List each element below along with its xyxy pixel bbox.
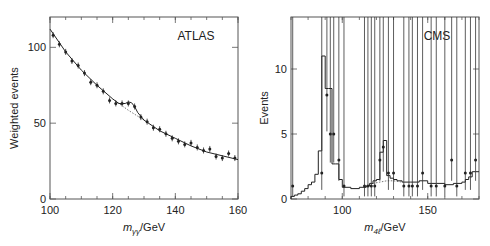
data-point (208, 147, 211, 150)
expected-histogram (291, 56, 479, 199)
data-point (474, 159, 477, 162)
data-point (64, 50, 67, 53)
data-point (332, 133, 335, 136)
data-point (387, 172, 390, 175)
data-point (183, 143, 186, 146)
data-point (177, 140, 180, 143)
x-tick-label: 120 (103, 204, 121, 216)
y-tick-label: 0 (40, 193, 46, 205)
data-point (373, 185, 376, 188)
data-point (378, 159, 381, 162)
data-point (152, 126, 155, 129)
x-tick-label: 100 (41, 204, 59, 216)
x-tick-label: 100 (333, 204, 351, 216)
data-point (370, 185, 373, 188)
data-point (89, 81, 92, 84)
y-axis-label: Events (258, 91, 270, 125)
data-point (139, 116, 142, 119)
signal-background-fit-line (50, 29, 238, 160)
data-point (337, 159, 340, 162)
data-point (96, 84, 99, 87)
data-point (455, 185, 458, 188)
data-point (435, 185, 438, 188)
data-point (233, 157, 236, 160)
experiment-label: CMS (424, 29, 451, 43)
y-tick-label: 10 (275, 63, 287, 75)
x-axis-label: m4ℓ/GeV (364, 221, 406, 236)
data-point (77, 64, 80, 67)
data-point (70, 59, 73, 62)
data-point (366, 185, 369, 188)
data-point (164, 132, 167, 135)
data-point (158, 128, 161, 131)
data-point (121, 102, 124, 105)
data-point (146, 120, 149, 123)
x-axis-label: mγγ/GeV (123, 221, 166, 236)
data-point (127, 102, 130, 105)
experiment-label: ATLAS (177, 29, 214, 43)
data-point (416, 185, 419, 188)
y-tick-label: 5 (281, 128, 287, 140)
data-point (58, 43, 61, 46)
atlas-chart: 100120140160050100mγγ/GeVWeighted events… (8, 17, 247, 236)
data-point (469, 172, 472, 175)
data-point (342, 185, 345, 188)
data-point (443, 185, 446, 188)
data-point (363, 185, 366, 188)
data-point (325, 94, 328, 97)
data-point (133, 105, 136, 108)
data-point (227, 152, 230, 155)
data-point (114, 102, 117, 105)
data-point (402, 185, 405, 188)
y-axis-label: Weighted events (8, 67, 20, 149)
plot-frame (50, 17, 238, 199)
data-point (52, 34, 55, 37)
y-tick-label: 50 (34, 117, 46, 129)
data-point (108, 99, 111, 102)
data-point (171, 137, 174, 140)
background-line (373, 181, 402, 184)
data-point (196, 146, 199, 149)
plot-frame (291, 17, 479, 199)
data-point (329, 133, 332, 136)
data-point (190, 141, 193, 144)
data-point (464, 172, 467, 175)
data-point (392, 172, 395, 175)
data-point (450, 159, 453, 162)
cms-chart: 1001500510m4ℓ/GeVEventsCMS (258, 17, 479, 236)
data-point (215, 155, 218, 158)
data-point (407, 185, 410, 188)
x-tick-label: 150 (419, 204, 437, 216)
x-tick-label: 140 (166, 204, 184, 216)
y-tick-label: 100 (28, 41, 46, 53)
data-point (202, 149, 205, 152)
data-point (291, 185, 294, 188)
data-point (102, 90, 105, 93)
data-point (421, 172, 424, 175)
x-tick-label: 160 (229, 204, 247, 216)
data-point (320, 172, 323, 175)
data-point (221, 157, 224, 160)
y-tick-label: 0 (281, 193, 287, 205)
data-point (411, 185, 414, 188)
data-point (430, 185, 433, 188)
data-point (83, 72, 86, 75)
figure: 100120140160050100mγγ/GeVWeighted events… (0, 0, 490, 246)
data-point (382, 146, 385, 149)
